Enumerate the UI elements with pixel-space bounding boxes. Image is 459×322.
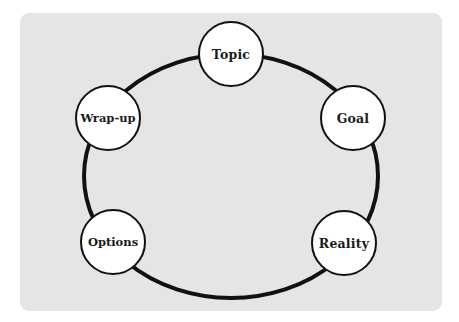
node-goal-label: Goal bbox=[337, 111, 370, 126]
node-wrap-up: Wrap-up bbox=[75, 85, 141, 151]
node-topic: Topic bbox=[198, 21, 264, 87]
node-wrap-up-label: Wrap-up bbox=[80, 111, 135, 125]
node-goal: Goal bbox=[320, 85, 386, 151]
node-options: Options bbox=[80, 209, 146, 275]
node-topic-label: Topic bbox=[212, 47, 250, 62]
node-reality-label: Reality bbox=[319, 236, 369, 251]
node-reality: Reality bbox=[311, 210, 377, 276]
node-options-label: Options bbox=[88, 235, 138, 249]
